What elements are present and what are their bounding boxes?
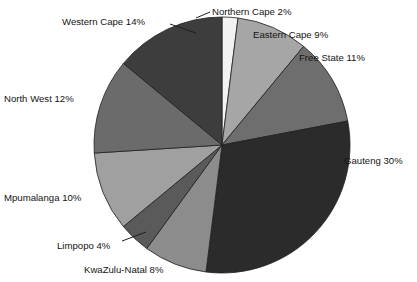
slice-label-kwazulu-natal: KwaZulu-Natal 8% <box>84 264 163 275</box>
pie-slice-gauteng <box>206 121 350 273</box>
slice-label-eastern-cape: Eastern Cape 9% <box>253 29 328 40</box>
slice-label-mpumalanga: Mpumalanga 10% <box>4 192 81 203</box>
slice-label-limpopo: Limpopo 4% <box>57 240 110 251</box>
slice-label-northern-cape: Northern Cape 2% <box>212 6 291 17</box>
slice-label-free-state: Free State 11% <box>299 52 365 63</box>
leader-line-northern-cape <box>196 12 210 18</box>
slice-label-gauteng: Gauteng 30% <box>344 155 403 166</box>
slice-label-north-west: North West 12% <box>4 93 74 104</box>
slice-label-western-cape: Western Cape 14% <box>62 16 145 27</box>
